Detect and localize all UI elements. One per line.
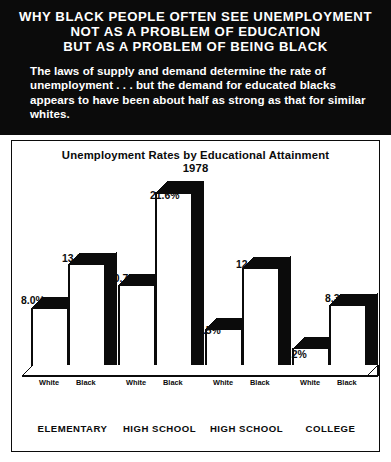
bar-face-black-1 xyxy=(156,193,192,376)
value-label-white-1: 10.7% xyxy=(108,274,137,284)
value-label-black-0: 13.2% xyxy=(62,254,91,264)
headline: WHY BLACK PEOPLE OFTEN SEE UNEMPLOYMENT … xyxy=(14,9,377,55)
value-label-black-1: 21.6% xyxy=(150,191,179,201)
subheadline: The laws of supply and demand determine … xyxy=(30,64,369,122)
series-label-black-3: Black xyxy=(337,379,357,386)
category-label-3: COLLEGE 1 year or more xyxy=(278,405,380,452)
value-label-black-3: 8.3% xyxy=(325,294,349,304)
series-label-black-0: Black xyxy=(76,379,96,386)
series-label-black-1: Black xyxy=(163,379,183,386)
bar-face-black-0 xyxy=(69,264,105,376)
series-label-black-2: Black xyxy=(250,379,270,386)
value-label-white-3: 3.2% xyxy=(283,350,307,360)
value-label-white-0: 8.0% xyxy=(21,296,45,306)
series-label-white-0: White xyxy=(39,379,59,386)
bar-face-white-1 xyxy=(119,285,155,376)
poster: WHY BLACK PEOPLE OFTEN SEE UNEMPLOYMENT … xyxy=(0,0,391,462)
series-label-white-2: White xyxy=(213,379,233,386)
value-label-black-2: 12.7% xyxy=(236,260,265,270)
category-label-3-line1: COLLEGE xyxy=(278,423,380,435)
value-label-white-2: 5.5% xyxy=(197,326,221,336)
poster-header: WHY BLACK PEOPLE OFTEN SEE UNEMPLOYMENT … xyxy=(0,0,391,135)
series-label-white-1: White xyxy=(126,379,146,386)
bar-face-black-2 xyxy=(243,268,279,376)
chart-panel: Unemployment Rates by Educational Attain… xyxy=(11,140,380,452)
baseline-deck xyxy=(22,365,378,376)
series-label-white-3: White xyxy=(300,379,320,386)
bar-group xyxy=(32,182,377,376)
chart-baseline xyxy=(22,365,378,376)
